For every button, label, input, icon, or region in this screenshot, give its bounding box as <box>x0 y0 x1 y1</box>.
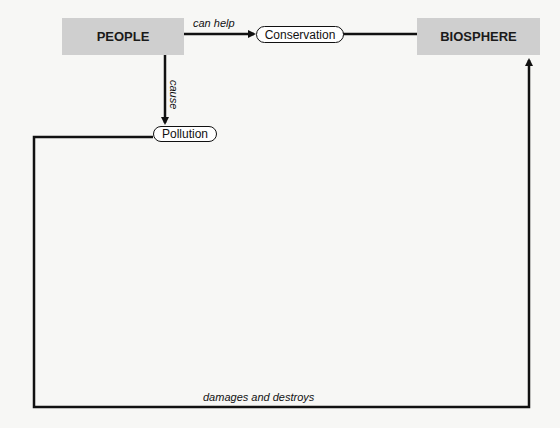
node-pollution: Pollution <box>153 126 217 142</box>
edge-label-can-help: can help <box>193 17 235 29</box>
node-people: PEOPLE <box>62 18 184 55</box>
edge-label-damages: damages and destroys <box>203 391 314 403</box>
node-biosphere: BIOSPHERE <box>417 18 540 55</box>
connector-lines <box>0 0 560 428</box>
edge-label-cause: cause <box>168 80 180 109</box>
node-conservation: Conservation <box>256 26 344 43</box>
